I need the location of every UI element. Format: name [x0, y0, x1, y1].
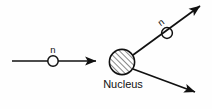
scattered-neutron-arrow: [133, 6, 200, 55]
incoming-neutron-label: n: [50, 44, 55, 55]
scattered-neutron-label: n: [156, 16, 167, 28]
nucleus-label: Nucleus: [103, 78, 143, 90]
diagram-canvas: n n Nucleus: [0, 0, 212, 109]
nucleus: [109, 49, 134, 74]
incoming-neutron-circle: [48, 56, 58, 66]
neutron-scattering-diagram: n n Nucleus: [0, 0, 212, 109]
